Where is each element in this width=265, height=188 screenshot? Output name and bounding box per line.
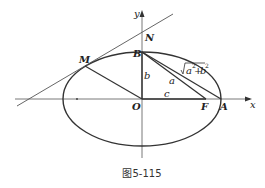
- segment-BA: [142, 52, 221, 99]
- segment-label-b: b: [144, 70, 150, 81]
- point-label-O: O: [132, 101, 141, 112]
- y-axis-label: y: [133, 8, 140, 19]
- segment-label-a: a: [169, 75, 175, 86]
- point-label-A: A: [219, 101, 228, 112]
- segment-OM: [85, 66, 142, 99]
- tangent-line: [17, 14, 173, 106]
- y-axis-arrow-icon: [140, 10, 145, 17]
- left-focus-dot: [76, 98, 78, 100]
- point-label-M: M: [78, 54, 91, 65]
- sqrt-label: a 2 + b 2: [181, 62, 209, 76]
- point-label-N: N: [144, 32, 155, 43]
- point-label-B: B: [132, 48, 141, 59]
- figure-caption: 图5-115: [122, 168, 161, 179]
- svg-text:2: 2: [205, 62, 209, 69]
- x-axis-label: x: [250, 99, 256, 110]
- ellipse-diagram: y x N B M O F A b a c a 2 + b 2 图5-115: [0, 0, 265, 188]
- segment-label-c: c: [164, 88, 170, 99]
- point-label-F: F: [200, 101, 209, 112]
